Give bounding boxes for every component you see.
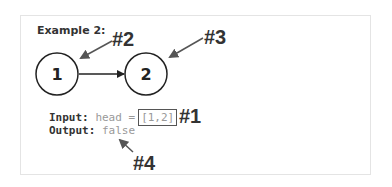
annotation-2-arrow [81, 41, 112, 58]
output-line: Output: false [49, 124, 135, 137]
node-2-label: 2 [140, 65, 151, 84]
output-value: false [102, 124, 135, 137]
annotation-3-arrow [170, 38, 203, 57]
input-expression: head = [95, 111, 135, 124]
output-key: Output: [49, 124, 95, 137]
list-node-1: 1 [36, 53, 78, 95]
list-node-2: 2 [125, 53, 167, 95]
annotation-3-label: #3 [204, 26, 226, 48]
annotation-4-label: #4 [133, 152, 156, 174]
linked-list-diagram: 1 2 #2 #3 #4 [0, 0, 392, 187]
annotation-1-label: #1 [179, 105, 201, 128]
input-value-box: [1,2] [138, 109, 177, 126]
input-key: Input: [49, 111, 89, 124]
annotation-4-arrow [120, 140, 133, 152]
node-1-label: 1 [51, 65, 62, 84]
annotation-2-label: #2 [112, 28, 134, 50]
